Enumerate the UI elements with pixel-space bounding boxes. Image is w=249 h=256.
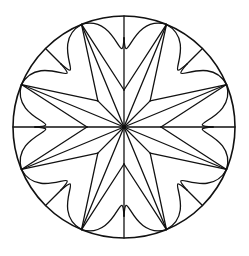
rosette-drawing [0, 0, 249, 256]
valley-ray [124, 127, 150, 153]
diagonal-stub [46, 49, 62, 65]
rosette-figure [0, 0, 249, 256]
valley-ray [98, 127, 124, 153]
diagonal-stub [187, 49, 203, 65]
diagonal-stub [187, 190, 203, 206]
valley-ray [98, 101, 124, 127]
diagonal-stub [46, 190, 62, 206]
valley-ray [124, 101, 150, 127]
